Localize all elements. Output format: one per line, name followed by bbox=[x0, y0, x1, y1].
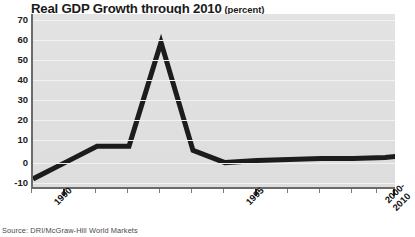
gridline-50 bbox=[33, 60, 395, 61]
gridline-0 bbox=[33, 163, 395, 164]
gridline-70 bbox=[33, 20, 395, 21]
gridline-40 bbox=[33, 80, 395, 81]
y-tick-label-50: 50 bbox=[2, 55, 28, 65]
x-tick-5 bbox=[191, 189, 192, 193]
x-tick-6 bbox=[223, 189, 224, 193]
y-tick-label-20: 20 bbox=[2, 115, 28, 125]
y-tick-label-40: 40 bbox=[2, 75, 28, 85]
gridline-60 bbox=[33, 40, 395, 41]
source-note: Source: DRI/McGraw-Hill World Markets bbox=[2, 226, 138, 235]
gridline-neg10 bbox=[33, 183, 395, 184]
x-tick-0 bbox=[31, 189, 32, 193]
x-tick-11 bbox=[376, 189, 377, 193]
y-tick-label-70: 70 bbox=[2, 15, 28, 25]
y-tick-label-10: 10 bbox=[2, 135, 28, 145]
gridline-20 bbox=[33, 120, 395, 121]
gridline-30 bbox=[33, 100, 395, 101]
y-tick-label-neg10: -10 bbox=[2, 178, 28, 188]
x-axis-ticks bbox=[31, 189, 395, 196]
plot-area bbox=[31, 14, 395, 189]
x-tick-10 bbox=[351, 189, 352, 193]
y-tick-label-60: 60 bbox=[2, 35, 28, 45]
x-tick-2 bbox=[95, 189, 96, 193]
x-tick-1990 bbox=[63, 189, 65, 196]
x-tick-9 bbox=[319, 189, 320, 193]
x-tick-8 bbox=[287, 189, 288, 193]
gridline-10 bbox=[33, 140, 395, 141]
y-tick-label-0: 0 bbox=[2, 158, 28, 168]
x-tick-4 bbox=[159, 189, 160, 193]
x-tick-2000 bbox=[393, 189, 395, 196]
y-tick-label-30: 30 bbox=[2, 95, 28, 105]
x-tick-3 bbox=[127, 189, 128, 193]
x-tick-1995 bbox=[255, 189, 257, 196]
y-axis: 70 60 50 40 30 20 10 0 -10 bbox=[0, 0, 28, 200]
